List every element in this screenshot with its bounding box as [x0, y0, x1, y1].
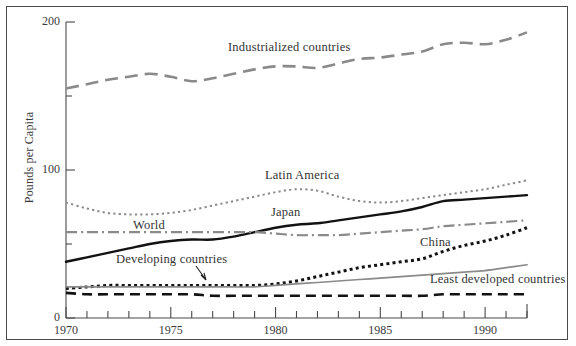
x-tick-label: 1975 [141, 323, 201, 338]
x-tick-label: 1980 [246, 323, 306, 338]
label-least-developed-countries: Least developed countries [430, 272, 566, 287]
x-tick-label: 1990 [455, 323, 515, 338]
y-tick-label: 100 [18, 162, 60, 177]
label-china: China [420, 235, 451, 250]
label-world: World [133, 218, 165, 233]
x-tick-label: 1985 [350, 323, 410, 338]
label-industrialized-countries: Industrialized countries [228, 40, 350, 55]
x-tick-label: 1970 [36, 323, 96, 338]
series-line-least-developed-countries [66, 293, 527, 296]
chart-figure: Pounds per Capita 0100200197019751980198… [0, 0, 576, 346]
label-japan: Japan [271, 205, 300, 220]
y-tick-label: 200 [18, 14, 60, 29]
label-developing-countries: Developing countries [116, 252, 227, 267]
developing-countries-leader-arrow [196, 266, 206, 280]
label-latin-america: Latin America [265, 168, 339, 183]
